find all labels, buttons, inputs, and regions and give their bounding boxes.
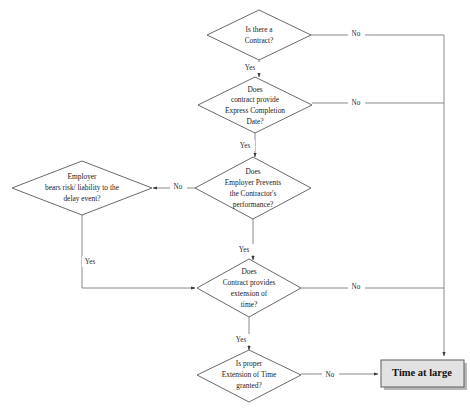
edge-label-d6-yes: Yes bbox=[85, 258, 96, 266]
d4-line-0: Does bbox=[241, 267, 256, 276]
decision-express-completion-date[interactable]: Does contract provide Express Completion… bbox=[198, 77, 312, 133]
d1-line-1: Contract? bbox=[245, 36, 274, 45]
decision-contract-provides-extension-of-time[interactable]: Does Contract provides extension of time… bbox=[197, 259, 301, 317]
decision-employer-prevents-performance[interactable]: Does Employer Prevents the Contractor's … bbox=[195, 157, 311, 219]
edge-d4-no: No bbox=[301, 282, 444, 294]
d5-line-1: Extension of Time bbox=[222, 370, 277, 379]
d5-line-0: Is proper bbox=[236, 359, 263, 368]
d6-line-0: Employer bbox=[67, 172, 97, 181]
edge-d5-no: No bbox=[301, 369, 378, 381]
edge-label-d4-yes: Yes bbox=[236, 336, 247, 344]
d4-line-3: time? bbox=[241, 300, 257, 309]
d2-line-1: contract provide bbox=[231, 95, 280, 104]
d4-line-2: extension of bbox=[231, 289, 268, 298]
d2-line-0: Does bbox=[247, 85, 262, 94]
d2-line-3: Date? bbox=[246, 117, 263, 126]
edge-d3-no: No bbox=[153, 182, 195, 194]
edge-label-d4-no: No bbox=[352, 283, 361, 291]
decision-is-proper-extension-granted[interactable]: Is proper Extension of Time granted? bbox=[197, 350, 301, 402]
edge-d1-no: No bbox=[311, 28, 444, 40]
decision-employer-bears-risk-liability[interactable]: Employer bears risk/ liability to the de… bbox=[12, 161, 152, 215]
edge-label-d1-yes: Yes bbox=[245, 64, 256, 72]
edge-label-d3-yes: Yes bbox=[239, 246, 250, 254]
edge-d3-yes: Yes bbox=[236, 219, 254, 260]
flowchart-svg: No Yes No Yes No Yes bbox=[0, 0, 470, 419]
d5-line-2: granted? bbox=[236, 381, 261, 390]
edge-d1-yes: Yes bbox=[242, 60, 260, 77]
edge-label-d1-no: No bbox=[352, 30, 361, 38]
d3-line-1: Employer Prevents bbox=[225, 178, 282, 187]
edge-label-d2-no: No bbox=[352, 99, 361, 107]
terminal-label: Time at large bbox=[392, 367, 452, 378]
edge-label-d3-no: No bbox=[174, 183, 183, 191]
edge-d6-yes: Yes bbox=[82, 215, 195, 288]
decision-is-there-a-contract[interactable]: Is there a Contract? bbox=[207, 10, 311, 60]
d3-line-0: Does bbox=[245, 167, 260, 176]
edge-d2-no: No bbox=[312, 97, 444, 109]
d3-line-3: performance? bbox=[233, 200, 274, 209]
edge-d2-yes: Yes bbox=[237, 133, 255, 157]
edge-label-d5-no: No bbox=[326, 371, 335, 379]
d6-line-1: bears risk/ liability to the bbox=[45, 183, 120, 192]
edge-d4-yes: Yes bbox=[233, 317, 251, 350]
edge-label-d2-yes: Yes bbox=[240, 142, 251, 150]
d6-line-2: delay event? bbox=[63, 194, 100, 203]
flowchart-canvas: No Yes No Yes No Yes bbox=[0, 0, 470, 419]
d1-line-0: Is there a bbox=[245, 25, 273, 34]
d3-line-2: the Contractor's bbox=[230, 189, 277, 198]
terminal-time-at-large[interactable]: Time at large bbox=[381, 360, 467, 390]
d4-line-1: Contract provides bbox=[223, 278, 276, 287]
d2-line-2: Express Completion bbox=[225, 106, 285, 115]
